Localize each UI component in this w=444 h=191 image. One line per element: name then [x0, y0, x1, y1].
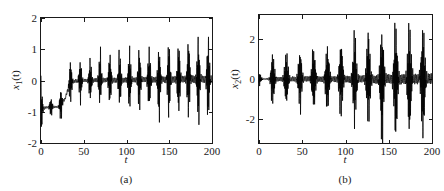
- plot-a-y-label-tail: (t): [9, 70, 22, 81]
- plot-a-svg: 050100150200 -2-1012 t x1(t) (a): [0, 0, 222, 191]
- plot-b-y-label-tail: (t): [228, 69, 241, 80]
- figure-container: 050100150200 -2-1012 t x1(t) (a) 0501001…: [0, 0, 444, 191]
- x-tick-label: 50: [78, 145, 90, 157]
- plot-b-y-tick-labels: -202: [246, 33, 256, 125]
- y-tick-label: 0: [32, 75, 38, 87]
- svg-text:x2(t): x2(t): [228, 69, 243, 90]
- panel-b-caption: (b): [339, 173, 352, 186]
- plot-a-x-tick-labels: 050100150200: [38, 145, 221, 157]
- x-tick-label: 0: [38, 145, 44, 157]
- plot-a-y-tick-labels: -2-1012: [28, 12, 38, 149]
- plot-a-data-trace: [41, 37, 212, 127]
- chart-panel-a: 050100150200 -2-1012 t x1(t) (a): [0, 0, 222, 191]
- x-tick-label: 150: [161, 145, 178, 157]
- x-tick-label: 50: [297, 145, 309, 157]
- x-tick-label: 0: [256, 145, 262, 157]
- plot-b-x-tick-labels: 050100150200: [256, 145, 441, 157]
- plot-b-y-axis-label: x2(t): [228, 69, 243, 90]
- plot-b-data-trace: [259, 23, 432, 143]
- panel-a-caption: (a): [120, 173, 133, 186]
- y-tick-label: 2: [250, 33, 256, 45]
- plot-a-y-axis-label: x1(t): [9, 70, 24, 91]
- y-tick-label: -2: [246, 113, 255, 125]
- x-tick-label: 200: [424, 145, 441, 157]
- chart-panel-b: 050100150200 -202 t x2(t) (b): [222, 0, 444, 191]
- y-tick-label: 0: [250, 73, 256, 85]
- y-tick-label: -1: [28, 106, 37, 118]
- y-tick-label: -2: [28, 137, 37, 149]
- y-tick-label: 1: [32, 43, 38, 55]
- svg-text:x1(t): x1(t): [9, 70, 24, 91]
- plot-b-svg: 050100150200 -202 t x2(t) (b): [222, 0, 444, 191]
- x-tick-label: 200: [204, 145, 221, 157]
- y-tick-label: 2: [32, 12, 38, 24]
- x-tick-label: 150: [381, 145, 398, 157]
